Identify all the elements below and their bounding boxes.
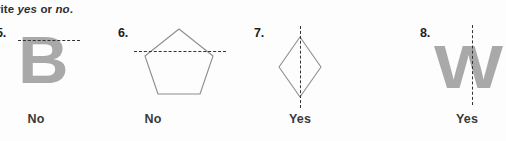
figure-area-8: W	[410, 22, 506, 108]
answer-label-8: Yes	[424, 112, 506, 126]
problem-item-8: 8. W Yes	[410, 22, 506, 141]
pentagon-shape	[142, 26, 216, 98]
instruction-italic-yes: yes	[18, 3, 38, 15]
symmetry-line-horizontal-5	[18, 40, 80, 41]
figure-area-5: B	[0, 22, 110, 108]
instruction-text-before: rite	[0, 3, 18, 15]
worksheet-page: rite yes or no. 5. B No 6. No 7. Yes	[0, 0, 506, 141]
instruction-italic-no: no	[55, 3, 69, 15]
answer-label-7: Yes	[260, 112, 340, 126]
instruction-text-middle: or	[37, 3, 55, 15]
problem-item-5: 5. B No	[0, 22, 110, 141]
letter-w-glyph: W	[434, 36, 501, 98]
instruction-text: rite yes or no.	[0, 3, 73, 15]
instruction-text-after: .	[70, 3, 73, 15]
answer-label-6: No	[116, 112, 190, 126]
problem-item-6: 6. No	[112, 22, 240, 141]
figure-area-7	[248, 22, 368, 108]
problem-item-7: 7. Yes	[248, 22, 368, 141]
figure-area-6	[112, 22, 240, 108]
symmetry-line-horizontal-6	[134, 51, 226, 52]
answer-label-5: No	[0, 112, 84, 126]
symmetry-line-vertical-7	[300, 26, 301, 108]
letter-b-glyph: B	[18, 27, 66, 93]
symmetry-line-vertical-8	[472, 25, 473, 105]
